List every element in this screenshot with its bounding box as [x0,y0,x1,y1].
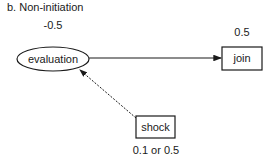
diagram-canvas: evaluation join shock [0,0,275,163]
node-shock: shock [136,116,175,138]
edge-shock-evaluation [80,70,136,118]
node-join: join [222,47,262,70]
shock-label: shock [141,121,170,133]
join-label: join [232,52,250,64]
node-evaluation: evaluation [17,47,89,71]
evaluation-label: evaluation [28,53,78,65]
